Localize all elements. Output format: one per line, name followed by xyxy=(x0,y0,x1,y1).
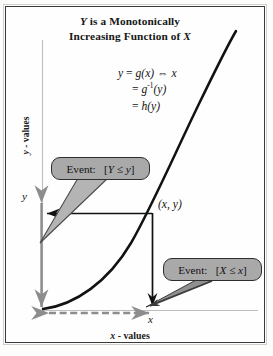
callout-tail-y xyxy=(40,178,108,243)
callout-y-suffix: ] xyxy=(131,163,135,175)
callout-pointer-x xyxy=(150,281,212,306)
curve-point-label: (x, y) xyxy=(158,198,182,211)
x-axis-label-text: - values xyxy=(115,330,150,341)
callout-y-prefix: Event: [ xyxy=(67,163,108,175)
figure-canvas: Y is a Monotonically Increasing Function… xyxy=(0,0,273,356)
callout-event-x: Event: [X ≤ x] xyxy=(163,258,262,281)
callout-x-prefix: Event: [ xyxy=(178,264,219,276)
callout-x-suffix: ] xyxy=(243,264,247,276)
x-axis-label: x - values xyxy=(70,330,190,341)
x-axis-tick-label: x xyxy=(148,313,153,325)
callout-event-y: Event: [Y ≤ y] xyxy=(51,157,150,180)
y-axis-label: y - values xyxy=(20,104,31,168)
y-axis-label-text: - values xyxy=(20,117,31,151)
y-axis-label-variable: y xyxy=(20,150,31,154)
y-axis-tick-label: y xyxy=(22,190,27,202)
callout-x-operator: ≤ xyxy=(226,264,238,276)
callout-y-operator: ≤ xyxy=(114,163,126,175)
